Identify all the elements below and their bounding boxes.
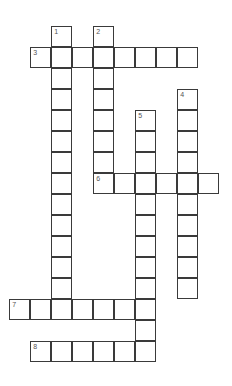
crossword-cell[interactable] bbox=[177, 152, 198, 173]
crossword-cell[interactable] bbox=[135, 320, 156, 341]
crossword-cell[interactable] bbox=[93, 152, 114, 173]
crossword-cell[interactable]: 5 bbox=[135, 110, 156, 131]
crossword-cell[interactable] bbox=[51, 215, 72, 236]
crossword-cell[interactable] bbox=[51, 89, 72, 110]
clue-number: 4 bbox=[180, 91, 184, 98]
crossword-cell[interactable] bbox=[114, 47, 135, 68]
crossword-cell[interactable] bbox=[93, 299, 114, 320]
crossword-cell[interactable] bbox=[72, 299, 93, 320]
clue-number: 1 bbox=[54, 28, 58, 35]
crossword-cell[interactable] bbox=[93, 68, 114, 89]
crossword-cell[interactable] bbox=[135, 299, 156, 320]
crossword-cell[interactable] bbox=[135, 257, 156, 278]
crossword-cell[interactable] bbox=[51, 299, 72, 320]
crossword-cell[interactable] bbox=[51, 152, 72, 173]
crossword-cell[interactable] bbox=[135, 194, 156, 215]
crossword-cell[interactable]: 6 bbox=[93, 173, 114, 194]
clue-number: 6 bbox=[96, 175, 100, 182]
crossword-cell[interactable] bbox=[51, 278, 72, 299]
crossword-cell[interactable] bbox=[135, 131, 156, 152]
crossword-cell[interactable] bbox=[51, 110, 72, 131]
crossword-cell[interactable] bbox=[177, 131, 198, 152]
crossword-cell[interactable] bbox=[177, 173, 198, 194]
crossword-cell[interactable]: 3 bbox=[30, 47, 51, 68]
crossword-cell[interactable] bbox=[135, 341, 156, 362]
crossword-cell[interactable]: 4 bbox=[177, 89, 198, 110]
crossword-cell[interactable] bbox=[135, 215, 156, 236]
crossword-cell[interactable] bbox=[93, 341, 114, 362]
crossword-cell[interactable] bbox=[156, 47, 177, 68]
crossword-cell[interactable] bbox=[114, 341, 135, 362]
crossword-cell[interactable] bbox=[135, 173, 156, 194]
crossword-cell[interactable] bbox=[177, 278, 198, 299]
crossword-cell[interactable] bbox=[198, 173, 219, 194]
crossword-cell[interactable] bbox=[114, 299, 135, 320]
clue-number: 3 bbox=[33, 49, 37, 56]
crossword-cell[interactable] bbox=[72, 341, 93, 362]
crossword-cell[interactable] bbox=[93, 131, 114, 152]
crossword-cell[interactable]: 1 bbox=[51, 26, 72, 47]
crossword-cell[interactable] bbox=[51, 173, 72, 194]
crossword-cell[interactable] bbox=[93, 47, 114, 68]
crossword-cell[interactable] bbox=[135, 152, 156, 173]
crossword-cell[interactable] bbox=[30, 299, 51, 320]
crossword-cell[interactable] bbox=[177, 257, 198, 278]
crossword-cell[interactable] bbox=[51, 68, 72, 89]
crossword-cell[interactable] bbox=[177, 194, 198, 215]
crossword-cell[interactable] bbox=[135, 47, 156, 68]
crossword-cell[interactable] bbox=[51, 131, 72, 152]
clue-number: 8 bbox=[33, 343, 37, 350]
crossword-cell[interactable] bbox=[135, 236, 156, 257]
crossword-cell[interactable] bbox=[51, 257, 72, 278]
clue-number: 2 bbox=[96, 28, 100, 35]
crossword-cell[interactable] bbox=[177, 215, 198, 236]
crossword-cell[interactable]: 8 bbox=[30, 341, 51, 362]
clue-number: 7 bbox=[12, 301, 16, 308]
crossword-cell[interactable] bbox=[72, 47, 93, 68]
crossword-cell[interactable]: 2 bbox=[93, 26, 114, 47]
crossword-cell[interactable] bbox=[177, 110, 198, 131]
clue-number: 5 bbox=[138, 112, 142, 119]
crossword-cell[interactable] bbox=[93, 89, 114, 110]
crossword-cell[interactable] bbox=[93, 110, 114, 131]
crossword-cell[interactable] bbox=[51, 47, 72, 68]
crossword-cell[interactable] bbox=[177, 47, 198, 68]
crossword-cell[interactable] bbox=[51, 194, 72, 215]
crossword-grid: 12634578 bbox=[0, 0, 232, 386]
crossword-cell[interactable] bbox=[114, 173, 135, 194]
crossword-cell[interactable] bbox=[156, 173, 177, 194]
crossword-cell[interactable]: 7 bbox=[9, 299, 30, 320]
crossword-cell[interactable] bbox=[177, 236, 198, 257]
crossword-cell[interactable] bbox=[51, 236, 72, 257]
crossword-cell[interactable] bbox=[135, 278, 156, 299]
crossword-cell[interactable] bbox=[51, 341, 72, 362]
